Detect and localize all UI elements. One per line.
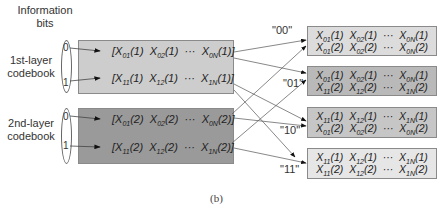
connector-arrows — [0, 0, 447, 210]
figure-caption: (b) — [210, 192, 223, 204]
